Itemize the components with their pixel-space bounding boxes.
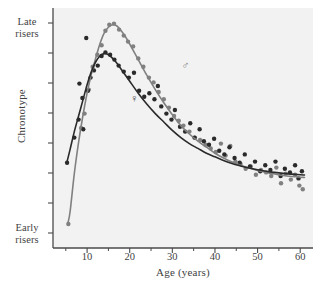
early-risers-line-2: risers: [5, 234, 49, 246]
male-series-annotation: ♂: [181, 60, 189, 71]
x-tick-label-20: 20: [117, 251, 143, 262]
female-series-annotation: ♀: [130, 93, 138, 104]
late-risers-line-1: Late: [5, 16, 49, 28]
chronotype-age-figure: Late risers Early risers Chronotype Age …: [0, 0, 322, 287]
x-tick-label-30: 30: [159, 251, 185, 262]
late-risers-line-2: risers: [5, 28, 49, 40]
y-axis-title: Chronotype: [15, 71, 27, 161]
y-axis-bottom-endpoint-label: Early risers: [5, 222, 49, 245]
x-tick-label-40: 40: [202, 251, 228, 262]
x-tick-label-60: 60: [287, 251, 313, 262]
x-tick-label-10: 10: [74, 251, 100, 262]
y-axis-top-endpoint-label: Late risers: [5, 16, 49, 39]
early-risers-line-1: Early: [5, 222, 49, 234]
x-axis-title: Age (years): [53, 266, 313, 278]
y-axis: [48, 8, 53, 248]
x-tick-label-50: 50: [245, 251, 271, 262]
